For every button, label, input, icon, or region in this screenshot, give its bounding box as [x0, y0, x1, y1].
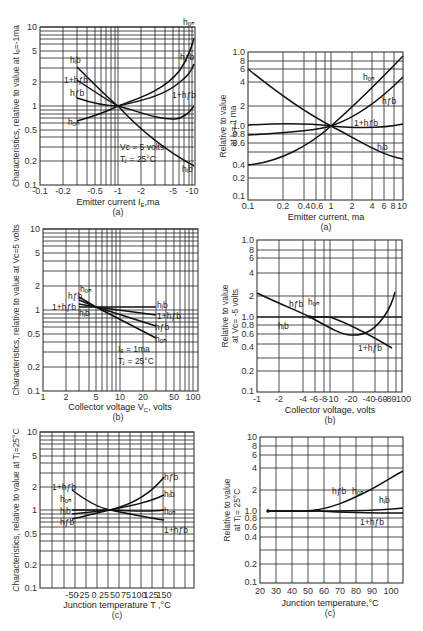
- y-axis-label: Characteristics, relative to value at Vᴄ…: [11, 224, 21, 396]
- label-hfb: hƒb: [382, 96, 396, 106]
- svg-text:1: 1: [32, 505, 37, 515]
- svg-text:25: 25: [99, 590, 109, 600]
- svg-text:20: 20: [255, 586, 265, 596]
- caption: (a): [321, 222, 332, 232]
- svg-text:-10: -10: [325, 394, 338, 404]
- label-hib-right: hᵢb: [157, 300, 168, 310]
- svg-text:1: 1: [40, 392, 45, 402]
- svg-text:4: 4: [249, 268, 254, 278]
- svg-text:0.6: 0.6: [241, 329, 254, 339]
- svg-text:10: 10: [397, 201, 407, 211]
- svg-text:30: 30: [271, 586, 281, 596]
- svg-text:1: 1: [328, 201, 333, 211]
- svg-text:-6: -6: [310, 394, 318, 404]
- annotation-tj: Tⱼ = 25°C: [118, 356, 154, 366]
- svg-text:-0.1: -0.1: [32, 186, 48, 196]
- svg-text:0.5: 0.5: [27, 329, 40, 339]
- svg-text:-2: -2: [275, 394, 283, 404]
- label-hib-right: hᵢb: [164, 489, 175, 499]
- svg-text:2: 2: [249, 291, 254, 301]
- label-hib: hᵢb: [60, 506, 71, 516]
- label-1hfb: 1+hƒb: [360, 517, 384, 527]
- y-axis-label: Characteristics, relative to value at Iₑ…: [11, 25, 21, 187]
- svg-text:2: 2: [32, 77, 37, 87]
- svg-text:-25: -25: [76, 590, 89, 600]
- svg-text:10: 10: [27, 427, 37, 437]
- annotation-vc: Vᴄ = 5 volts: [120, 142, 164, 152]
- svg-text:0.6: 0.6: [311, 201, 324, 211]
- svg-text:2: 2: [35, 281, 40, 291]
- curve-hob: [79, 297, 156, 338]
- annotation-ie: Iₑ = 1ma: [118, 344, 150, 354]
- svg-text:4: 4: [240, 77, 245, 87]
- label-hfb: hƒb: [180, 52, 194, 62]
- svg-text:40: 40: [287, 586, 297, 596]
- svg-text:8: 8: [390, 201, 395, 211]
- x-ticks: -0.1-0.2 -0.5-1 -2-5 -10: [32, 186, 198, 196]
- y-axis-label-2: at Iₑ= 1 ma: [228, 105, 238, 146]
- svg-text:0.2: 0.2: [244, 559, 257, 569]
- chart-left-b: 105 21 0.50.2 0.1 12 510 2050 100 hₒₙ hƒ…: [11, 224, 201, 422]
- caption: (a): [113, 207, 124, 217]
- svg-text:-4: -4: [299, 394, 307, 404]
- chart-left-c: 105 21 0.50.2 0.1 -50-25 025 5075 100125…: [11, 427, 194, 620]
- label-hfb-left: hƒb: [70, 88, 84, 98]
- label-hib-right: hᵢb: [182, 164, 193, 174]
- svg-text:4: 4: [252, 463, 257, 473]
- chart-right-c: 108 64 21.0 0.80.6 0.40.2 0.1 2030 4050 …: [222, 432, 403, 618]
- label-1hfb: 1+hƒb: [52, 482, 76, 492]
- svg-text:10: 10: [30, 224, 40, 234]
- y-axis-label-2: at Tⱼ= 25°C: [232, 489, 242, 532]
- svg-text:60: 60: [319, 586, 329, 596]
- svg-text:2: 2: [32, 482, 37, 492]
- curve-hob: [77, 38, 194, 121]
- caption: (c): [325, 608, 336, 618]
- svg-text:0.4: 0.4: [298, 201, 311, 211]
- svg-text:0.4: 0.4: [244, 532, 257, 542]
- label-hib: hᵢb: [79, 308, 90, 318]
- label-hob-left: hₒₙ: [68, 117, 80, 127]
- label-1hfb: 1+hƒb: [358, 343, 382, 353]
- svg-text:0.1: 0.1: [27, 386, 40, 396]
- label-1hfb: 1+hƒb: [172, 90, 196, 100]
- caption: (c): [112, 610, 123, 620]
- svg-text:0.2: 0.2: [241, 366, 254, 376]
- label-hfb-right: hƒb: [164, 472, 178, 482]
- svg-text:1: 1: [35, 305, 40, 315]
- label-hfb: hƒb: [60, 517, 74, 527]
- label-1hfb: 1+hƒb: [354, 118, 378, 128]
- svg-text:6: 6: [249, 253, 254, 263]
- x-axis-label: Junction temperature,°C: [281, 598, 379, 608]
- svg-text:5: 5: [32, 46, 37, 56]
- chart-right-a: 1.08 64 21.0 0.80.6 0.40.2 0.1 0.10.2 0.…: [218, 47, 407, 232]
- x-ticks: -1-2 -4-6 -8-10 -20-40 -60-80 -100: [253, 394, 411, 404]
- x-axis-label: Collector voltage, volts: [285, 405, 376, 415]
- svg-text:-2: -2: [137, 186, 145, 196]
- svg-text:0.1: 0.1: [242, 201, 255, 211]
- label-hob: hₒₙ: [363, 72, 375, 82]
- svg-text:2: 2: [252, 485, 257, 495]
- x-ticks: 12 510 2050 100: [40, 392, 200, 402]
- svg-text:2: 2: [63, 392, 68, 402]
- x-ticks: 0.10.2 0.40.6 12 46 810: [242, 201, 407, 211]
- svg-text:10: 10: [27, 22, 37, 32]
- y-ticks: 108 64 21.0 0.80.6 0.40.2 0.1: [244, 432, 257, 587]
- reference-point: [308, 315, 312, 319]
- svg-text:0.5: 0.5: [24, 125, 37, 135]
- svg-text:50: 50: [169, 392, 179, 402]
- label-hib: hᵢb: [278, 321, 289, 331]
- label-hib: hᵢb: [379, 495, 390, 505]
- y-ticks: 105 21 0.50.2 0.1: [24, 22, 37, 190]
- svg-text:0.2: 0.2: [232, 173, 245, 183]
- label-1hfb: 1+hƒb: [52, 302, 76, 312]
- y-axis-label: Characteristics, relative to value at Tⱼ…: [11, 428, 21, 591]
- y-axis-label-1: Relative to value: [218, 94, 228, 157]
- annotation-tj: Tⱼ = 25°C: [120, 154, 156, 164]
- svg-text:0.1: 0.1: [232, 191, 245, 201]
- label-1hfb-right: 1+hƒb: [157, 311, 181, 321]
- svg-text:5: 5: [93, 392, 98, 402]
- svg-text:-1: -1: [114, 186, 122, 196]
- label-hob-right: hₒₙ: [164, 506, 176, 516]
- label-1hfb-left: 1+hƒb: [64, 75, 88, 85]
- label-hob: hₒₙ: [60, 494, 72, 504]
